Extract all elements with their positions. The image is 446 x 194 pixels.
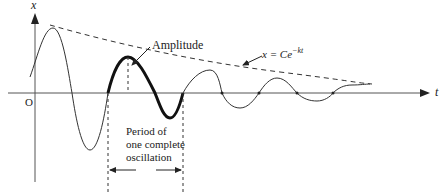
envelope-equation-label: x = Ce−kt [262, 46, 303, 60]
oscillation-curve-early [30, 28, 108, 150]
period-label-line-1: Period of [126, 125, 206, 138]
oscillation-curve-one-period [108, 57, 183, 118]
period-label-line-2: one complete [126, 138, 206, 151]
envelope-curve [50, 25, 372, 84]
t-axis-arrow-icon [420, 89, 430, 97]
origin-label: O [25, 96, 33, 108]
period-label: Period of one complete oscillation [126, 125, 206, 164]
x-axis-label: t [435, 85, 438, 100]
amplitude-label: Amplitude [152, 38, 203, 53]
amplitude-leader-arrow [132, 47, 150, 65]
envelope-leader-arrow [243, 56, 262, 65]
period-label-line-3: oscillation [126, 151, 206, 164]
envelope-equation-base: x = Ce [262, 48, 292, 60]
y-axis-label: x [31, 0, 36, 13]
damped-oscillation-diagram [0, 0, 446, 194]
oscillation-curve-late [183, 70, 370, 108]
envelope-equation-exponent: −kt [292, 46, 303, 55]
x-axis-arrow-icon [31, 13, 39, 24]
